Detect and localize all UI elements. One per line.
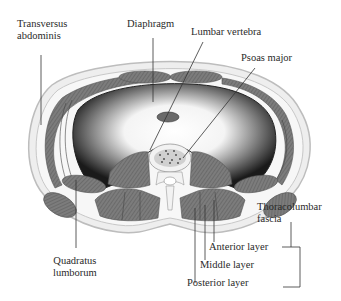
label-thoracolumbar-fascia: Thoracolumbar fascia [257,201,322,225]
label-lumbar-vertebra: Lumbar vertebra [191,26,261,38]
label-quadratus-line2: lumborum [53,267,97,279]
label-anterior-layer: Anterior layer [209,241,268,253]
label-middle-layer: Middle layer [200,259,254,271]
label-quadratus-lumborum: Quadratus lumborum [53,255,97,279]
label-posterior-layer: Posterior layer [187,277,249,289]
label-transversus-abdominis: Transversus abdominis [17,18,67,42]
label-fascia-line1: Thoracolumbar [257,201,322,213]
label-diaphragm: Diaphragm [127,18,174,30]
cross-section-illustration [0,0,341,301]
diagram-canvas: Transversus abdominis Diaphragm Lumbar v… [0,0,341,301]
label-fascia-line2: fascia [257,213,322,225]
label-transversus-line2: abdominis [17,30,67,42]
label-quadratus-line1: Quadratus [53,255,97,267]
label-psoas-major: Psoas major [241,52,292,64]
label-transversus-line1: Transversus [17,18,67,30]
fascia-bracket [282,247,300,287]
